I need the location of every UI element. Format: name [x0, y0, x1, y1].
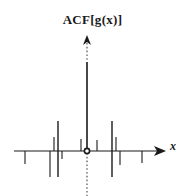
acf-spike-group-right: [97, 121, 142, 177]
x-axis-label: x: [170, 139, 176, 154]
acf-spike-group: [25, 121, 81, 177]
acf-figure: ACF[g(x)]: [0, 0, 185, 196]
origin-marker-icon: [84, 148, 89, 153]
plot-canvas: [0, 0, 185, 196]
